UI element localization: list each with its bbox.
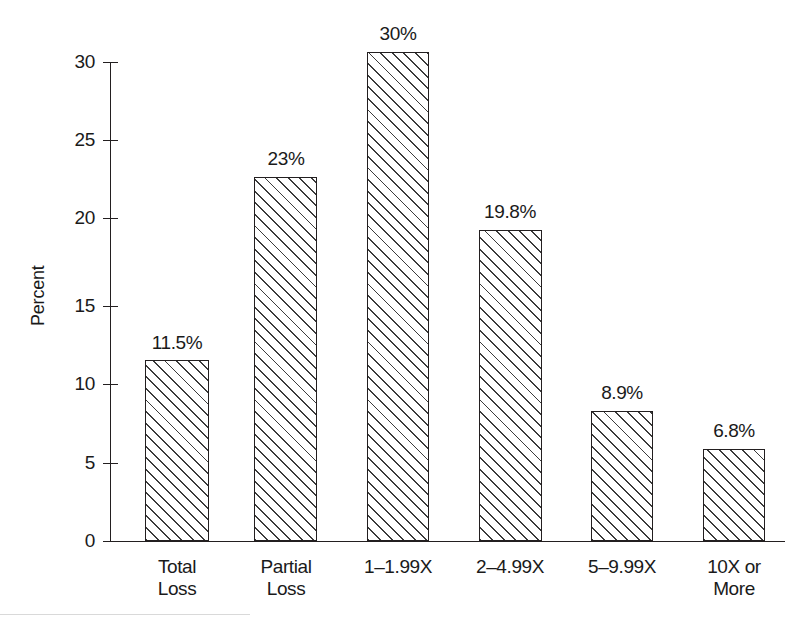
y-axis-tick-label-30: 30 <box>35 52 95 71</box>
bar-value-label-1-to-1-99x: 30% <box>338 24 458 43</box>
x-axis-label-2-to-4-99x: 2–4.99X <box>450 556 570 578</box>
bar-1-to-1-99x <box>367 52 429 541</box>
x-axis-label-total-loss: Total Loss <box>117 556 237 600</box>
bar-2-to-4-99x <box>479 230 542 541</box>
x-axis-label-partial-loss: Partial Loss <box>226 556 346 600</box>
x-axis-label-1-to-1-99x: 1–1.99X <box>338 556 458 578</box>
bar-partial-loss <box>254 177 317 541</box>
y-axis-tick-label-25: 25 <box>35 130 95 149</box>
bar-value-label-2-to-4-99x: 19.8% <box>450 202 570 221</box>
bar-10x-or-more <box>703 449 765 541</box>
page-edge-rule <box>0 614 250 615</box>
x-axis-line <box>110 541 785 542</box>
y-axis-tick-5 <box>103 463 118 464</box>
y-axis-tick-15 <box>103 306 118 307</box>
y-axis-tick-label-0: 0 <box>35 531 95 550</box>
y-axis-tick-30 <box>103 62 118 63</box>
y-axis-tick-0 <box>103 541 118 542</box>
bar-value-label-partial-loss: 23% <box>226 149 346 168</box>
bar-chart-figure: 0 5 10 15 20 25 30 Percent 11.5% 23% 30%… <box>0 0 809 629</box>
y-axis-tick-25 <box>103 140 118 141</box>
bar-total-loss <box>145 360 209 541</box>
x-axis-label-5-to-9-99x: 5–9.99X <box>562 556 682 578</box>
y-axis-line <box>110 62 111 542</box>
y-axis-tick-label-5: 5 <box>35 453 95 472</box>
bar-value-label-5-to-9-99x: 8.9% <box>562 383 682 402</box>
bar-value-label-10x-or-more: 6.8% <box>674 421 794 440</box>
y-axis-tick-20 <box>103 218 118 219</box>
bar-5-to-9-99x <box>591 411 653 541</box>
y-axis-tick-label-20: 20 <box>35 208 95 227</box>
y-axis-tick-10 <box>103 384 118 385</box>
bar-value-label-total-loss: 11.5% <box>117 333 237 352</box>
x-axis-label-10x-or-more: 10X or More <box>674 556 794 600</box>
plot-area: 0 5 10 15 20 25 30 Percent 11.5% 23% 30%… <box>0 0 809 629</box>
y-axis-title: Percent <box>0 286 78 326</box>
y-axis-tick-label-10: 10 <box>35 374 95 393</box>
